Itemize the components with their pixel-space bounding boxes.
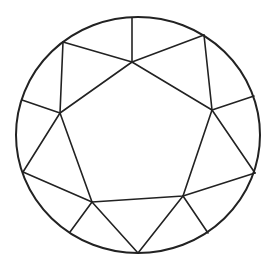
facet-lines: [22, 18, 255, 253]
facet-edge: [132, 35, 204, 62]
facet-edge: [92, 202, 138, 253]
facet-edge: [212, 110, 255, 173]
table-facet: [60, 62, 212, 202]
facet-edge: [138, 196, 183, 253]
facet-edge: [183, 196, 208, 233]
girdle-outline: [16, 17, 260, 253]
gem-facet-drawing: [0, 0, 270, 262]
facet-edge: [70, 202, 92, 232]
facet-edge: [63, 42, 132, 62]
facet-edge: [212, 96, 254, 110]
facet-edge: [22, 100, 60, 113]
facet-edge: [204, 35, 212, 110]
gem-diagram: [0, 0, 270, 262]
facet-edge: [60, 42, 63, 113]
facet-edge: [23, 113, 60, 172]
